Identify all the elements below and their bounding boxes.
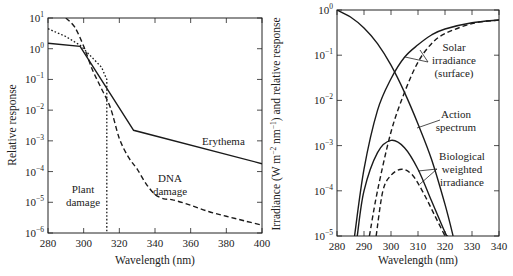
plant-damage-label-line1: Plant — [72, 183, 95, 195]
right-x-axis-title: Wavelength (nm) — [378, 254, 458, 267]
solar-irradiance-label-line3: (surface) — [434, 67, 473, 80]
erythema-label: Erythema — [202, 135, 245, 147]
series-biological-weighted-irradiance-b — [376, 169, 445, 236]
y-tick-label: 10−1 — [314, 47, 333, 61]
x-tick-label: 280 — [40, 237, 57, 249]
y-tick-label: 10−4 — [314, 183, 333, 197]
x-tick-label: 330 — [464, 240, 481, 252]
y-tick-label: 10−2 — [314, 92, 333, 106]
left-x-ticks: 280300320340360380400 — [40, 18, 271, 249]
dna-damage-label-line2: damage — [153, 185, 187, 197]
x-tick-label: 340 — [147, 237, 164, 249]
x-tick-label: 300 — [75, 237, 92, 249]
series-solar-irradiance-surface-b — [369, 20, 499, 236]
y-tick-label: 10−1 — [25, 71, 44, 85]
x-tick-label: 290 — [356, 240, 373, 252]
series-solar-irradiance-surface-a — [355, 20, 499, 236]
bio-weighted-label-line2: weighted — [442, 163, 483, 175]
y-tick-label: 10−4 — [25, 164, 44, 178]
x-tick-label: 380 — [218, 237, 235, 249]
left-x-axis-title: Wavelength (nm) — [115, 254, 195, 267]
solar-irradiance-label-line1: Solar — [442, 41, 466, 53]
right-chart: 280290300310320330340 10010−110−210−310−… — [269, 2, 508, 267]
x-tick-label: 360 — [182, 237, 199, 249]
plant-damage-label-line2: damage — [66, 196, 100, 208]
solar-irradiance-label-line2: irradiance — [432, 54, 476, 66]
bio-pointer-1 — [418, 169, 437, 171]
dna-damage-label-line1: DNA — [158, 172, 182, 184]
left-y-axis-title: Relative response — [6, 84, 19, 165]
series-biological-weighted-irradiance-a — [357, 140, 447, 236]
bio-weighted-label-line3: irradiance — [440, 176, 484, 188]
y-tick-label: 100 — [29, 41, 44, 55]
x-tick-label: 300 — [383, 240, 400, 252]
y-tick-label: 10−2 — [25, 102, 44, 116]
left-chart: 280300320340360380400 10110010−110−210−3… — [6, 10, 271, 267]
y-tick-label: 101 — [29, 10, 44, 24]
bio-weighted-label-line1: Biological — [439, 150, 485, 162]
x-tick-label: 400 — [254, 237, 271, 249]
y-tick-label: 10−5 — [25, 194, 44, 208]
solar-pointer-1 — [405, 57, 428, 62]
x-tick-label: 280 — [329, 240, 346, 252]
figure: 280300320340360380400 10110010−110−210−3… — [0, 0, 513, 276]
x-tick-label: 320 — [111, 237, 128, 249]
y-tick-label: 100 — [318, 2, 333, 16]
action-spectrum-label-line2: spectrum — [436, 121, 477, 133]
y-tick-label: 10−3 — [314, 138, 333, 152]
x-tick-label: 320 — [437, 240, 454, 252]
x-tick-label: 310 — [410, 240, 427, 252]
action-spectrum-label-line1: Action — [441, 108, 471, 120]
y-tick-label: 10−3 — [25, 133, 44, 147]
right-y-axis-title: Irradiance (W m−2 nm−1) and relative res… — [269, 17, 283, 230]
right-x-ticks: 280290300310320330340 — [329, 10, 508, 252]
x-tick-label: 340 — [491, 240, 508, 252]
bio-pointer-2 — [420, 169, 437, 184]
